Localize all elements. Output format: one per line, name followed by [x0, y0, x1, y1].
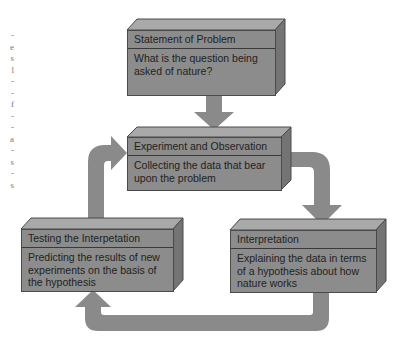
arrow-testing-to-experiment: [88, 136, 127, 219]
box-title: Experiment and Observation: [128, 138, 281, 156]
arrow-statement-to-experiment: [194, 95, 234, 130]
box-experiment-and-observation: Experiment and Observation Collecting th…: [127, 137, 282, 191]
box-description: Predicting the results of new experiment…: [22, 248, 173, 289]
box-testing-the-interpretation: Testing the Interpetation Predicting the…: [21, 229, 174, 292]
arrow-interpretation-to-testing: [75, 290, 329, 331]
box-statement-of-problem: Statement of Problem What is the questio…: [127, 30, 276, 96]
box-description: Collecting the data that bear upon the p…: [128, 156, 281, 184]
box-description: Explaining the data in terms of a hypoth…: [231, 249, 376, 290]
box-description: What is the question being asked of natu…: [128, 49, 275, 77]
box-title: Interpretation: [231, 231, 376, 249]
arrow-experiment-to-interpretation: [290, 152, 342, 225]
box-interpretation: Interpretation Explaining the data in te…: [230, 230, 377, 293]
box-title: Testing the Interpetation: [22, 230, 173, 248]
box-title: Statement of Problem: [128, 31, 275, 49]
